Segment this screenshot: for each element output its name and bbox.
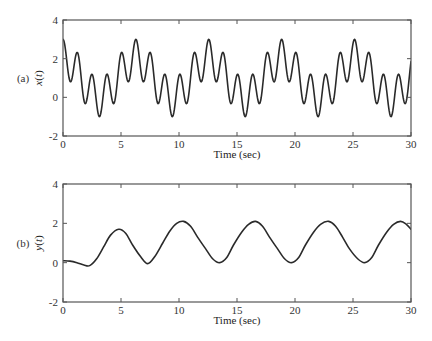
y-axis-label: y(t) [32,235,45,252]
plot-frame [63,20,411,136]
x-tick-label: 30 [406,304,418,316]
y-tick-label: 2 [53,53,59,65]
plot-frame [63,184,411,302]
y-tick-label: 0 [53,91,59,103]
x-tick-label: 20 [290,138,302,150]
x-tick-label: 10 [174,304,186,316]
y-tick-label: 4 [53,178,59,190]
x-tick-label: 25 [348,138,360,150]
panel-b-yt-plot: 051015202530-2024Time (sec)y(t)(b) [17,178,417,327]
x-tick-label: 0 [60,304,66,316]
panel-label: (b) [17,237,30,250]
x-tick-label: 5 [118,138,124,150]
chart-figure: 051015202530-2024Time (sec)x(t)(a) 05101… [0,0,432,341]
y-tick-label: 4 [53,14,59,26]
y-tick-label: -2 [49,130,58,142]
series-line-y(t) [63,221,411,266]
x-axis-label: Time (sec) [214,148,261,161]
x-tick-label: 5 [118,304,124,316]
panel-a-xt-plot: 051015202530-2024Time (sec)x(t)(a) [17,14,417,161]
x-tick-label: 0 [60,138,66,150]
y-axis-label: x(t) [32,70,45,87]
panel-label: (a) [17,72,30,85]
y-tick-label: -2 [49,296,58,308]
x-tick-label: 20 [290,304,302,316]
x-tick-label: 30 [406,138,418,150]
x-axis-label: Time (sec) [214,314,261,327]
series-line-x(t) [63,39,411,116]
y-tick-label: 0 [53,257,59,269]
x-tick-label: 25 [348,304,360,316]
y-tick-label: 2 [53,217,59,229]
x-tick-label: 10 [174,138,186,150]
